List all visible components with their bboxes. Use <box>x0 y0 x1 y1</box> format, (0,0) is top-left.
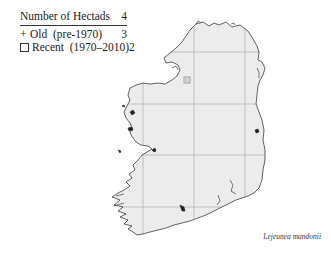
legend-label-recent: Recent (1970–2010) <box>32 41 129 53</box>
legend-title-row: Number of Hectads 4 <box>20 10 127 26</box>
legend-item-recent: Recent (1970–2010) 2 <box>20 41 127 54</box>
square-icon <box>20 43 29 52</box>
legend-count-recent: 2 <box>129 41 135 54</box>
land-fill <box>112 22 265 235</box>
legend-count-old: 3 <box>121 28 127 41</box>
species-name: Lejeunea mandonii <box>263 232 321 241</box>
map-legend: Number of Hectads 4 +Old (pre-1970) 3 Re… <box>20 10 127 54</box>
legend-item-old: +Old (pre-1970) 3 <box>20 28 127 41</box>
legend-title: Number of Hectads <box>20 10 110 23</box>
legend-total-count: 4 <box>121 10 127 23</box>
plus-icon: + <box>20 28 30 41</box>
legend-label-old: Old (pre-1970) <box>30 28 102 40</box>
